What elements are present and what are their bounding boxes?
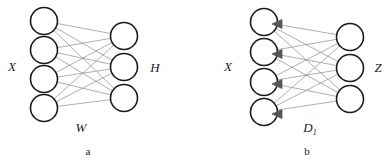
input-node-circle bbox=[31, 37, 58, 64]
network-diagram-figure: X H W a X Z D1 b bbox=[0, 0, 391, 165]
panel-b-output-nodes bbox=[337, 24, 364, 113]
input-node-circle bbox=[251, 9, 278, 36]
input-node-circle bbox=[31, 66, 58, 93]
input-node-circle bbox=[251, 39, 278, 66]
panel-b-caption: b bbox=[304, 145, 310, 157]
panel-b-input-label: X bbox=[223, 59, 233, 74]
output-node-circle bbox=[111, 23, 138, 50]
input-node-circle bbox=[31, 95, 58, 122]
panel-a-output-nodes bbox=[111, 23, 138, 112]
panel-a-input-label: X bbox=[7, 59, 17, 74]
panel-b-output-label: Z bbox=[374, 60, 382, 75]
panel-a-caption: a bbox=[86, 145, 91, 157]
input-node-circle bbox=[251, 99, 278, 126]
input-node-circle bbox=[31, 8, 58, 35]
input-node-circle bbox=[251, 69, 278, 96]
panel-a-weight-label: W bbox=[76, 120, 88, 135]
output-node-circle bbox=[337, 24, 364, 51]
output-node-circle bbox=[111, 54, 138, 81]
output-node-circle bbox=[111, 85, 138, 112]
panel-a-output-label: H bbox=[149, 60, 160, 75]
output-node-circle bbox=[337, 55, 364, 82]
output-node-circle bbox=[337, 86, 364, 113]
